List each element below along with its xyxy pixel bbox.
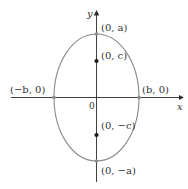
focus-top-point	[94, 59, 98, 63]
left-vertex-point	[52, 96, 56, 100]
bottom-vertex-point	[95, 159, 99, 163]
y-axis-label: y	[86, 8, 93, 19]
bottom-vertex-label: (0, −a)	[101, 165, 136, 176]
focus-bottom-label: (0, −c)	[101, 120, 136, 131]
ellipse-diagram: y x 0 (0, a) (0, c) (−b, 0) (b, 0) (0, −…	[0, 0, 188, 189]
focus-bottom-point	[94, 133, 98, 137]
top-vertex-point	[95, 32, 99, 36]
top-vertex-label: (0, a)	[101, 22, 128, 33]
focus-top-label: (0, c)	[101, 50, 127, 61]
right-vertex-label: (b, 0)	[142, 84, 169, 95]
left-vertex-label: (−b, 0)	[10, 84, 45, 95]
right-vertex-point	[137, 96, 141, 100]
origin-label: 0	[89, 101, 95, 111]
x-axis-label: x	[177, 101, 183, 112]
